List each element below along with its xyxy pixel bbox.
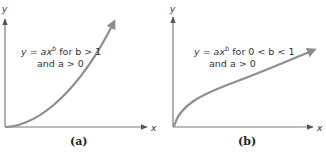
x-axis-label-a: x xyxy=(150,123,157,133)
caption-b: (b) xyxy=(238,135,256,148)
equation-b-line2: and a > 0 xyxy=(209,58,256,69)
x-axis-label-b: x xyxy=(316,123,323,133)
power-function-diagram: y x y = axb for b > 1 and a > 0 (a) y x … xyxy=(0,0,326,159)
equation-b-line1: y = axb for 0 < b < 1 xyxy=(193,45,294,57)
y-axis-label-b: y xyxy=(169,4,176,14)
panel-a: y x y = axb for b > 1 and a > 0 (a) xyxy=(1,4,157,148)
equation-a-line1: y = axb for b > 1 xyxy=(20,45,101,57)
panel-b: y x y = axb for 0 < b < 1 and a > 0 (b) xyxy=(169,4,323,148)
equation-a-line2: and a > 0 xyxy=(37,58,84,69)
curve-a xyxy=(6,22,114,127)
y-axis-label-a: y xyxy=(1,4,8,14)
caption-a: (a) xyxy=(70,135,88,148)
